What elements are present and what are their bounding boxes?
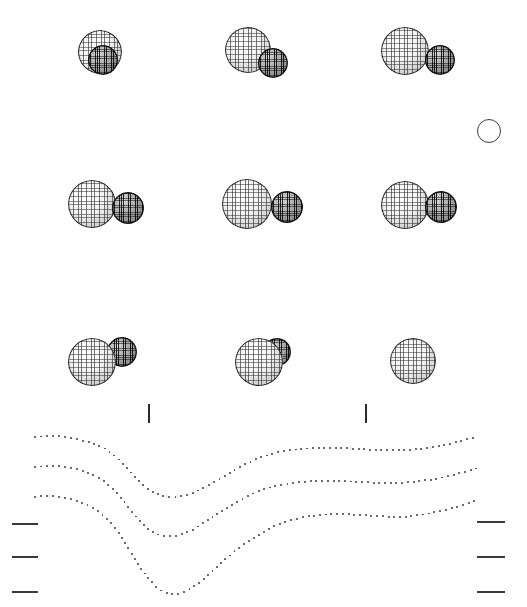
curve-dot — [229, 555, 231, 557]
config-r2c3-secondary-sphere — [425, 191, 457, 223]
curve-dot — [253, 537, 255, 539]
curve-dot — [224, 558, 226, 560]
curve-dot — [140, 568, 142, 570]
curve-dot — [290, 519, 292, 521]
curve-dot — [155, 586, 157, 588]
curve-dot — [216, 566, 218, 568]
curve-dot — [258, 534, 260, 536]
config-r2c1-primary-sphere — [68, 180, 116, 228]
curve-dot — [422, 514, 424, 516]
curve-dot — [451, 507, 453, 509]
curve-dot — [97, 510, 99, 512]
curve-dot — [439, 510, 441, 512]
config-r1c1-secondary-sphere — [88, 45, 118, 75]
curve-dot — [203, 578, 205, 580]
curve-dot — [336, 513, 338, 515]
curve-dot — [248, 540, 250, 542]
curve-dot — [388, 516, 390, 518]
curve-dot — [416, 514, 418, 516]
curve-dot — [147, 577, 149, 579]
curve-dot — [124, 542, 126, 544]
curve-dot — [114, 527, 116, 529]
curve-dot — [313, 515, 315, 517]
curve-dot — [121, 537, 123, 539]
curve-dot — [473, 500, 475, 502]
binary-star-figure — [0, 0, 527, 607]
curve-dot — [198, 582, 200, 584]
curve-dot — [325, 514, 327, 516]
curve-dot — [279, 523, 281, 525]
curve-dot — [151, 581, 153, 583]
curve-dot — [445, 509, 447, 511]
curve-bottom — [0, 0, 527, 607]
config-r1c2-secondary-sphere — [258, 48, 288, 78]
curve-dot — [87, 504, 89, 506]
curve-dot — [359, 514, 361, 516]
curve-dot — [102, 514, 104, 516]
curve-dot — [308, 515, 310, 517]
curve-dot — [365, 514, 367, 516]
curve-dot — [410, 515, 412, 517]
curve-dot — [348, 513, 350, 515]
curve-dot — [144, 573, 146, 575]
config-r2c2-primary-sphere — [222, 179, 272, 229]
curve-dot — [110, 522, 112, 524]
curve-dot — [234, 550, 236, 552]
curve-dot — [137, 563, 139, 565]
config-r2c3-primary-sphere — [381, 181, 429, 229]
curve-dot — [189, 588, 191, 590]
curve-dot — [52, 495, 54, 497]
curve-dot — [319, 514, 321, 516]
curve-dot — [302, 516, 304, 518]
config-r2c2-secondary-sphere — [271, 191, 303, 223]
config-r2c1-secondary-sphere — [112, 192, 144, 224]
curve-dot — [171, 593, 173, 595]
curve-dot — [118, 532, 120, 534]
curve-dot — [370, 515, 372, 517]
curve-dot — [212, 570, 214, 572]
curve-dot — [220, 562, 222, 564]
curve-dot — [393, 516, 395, 518]
curve-dot — [131, 553, 133, 555]
curve-dot — [296, 518, 298, 520]
curve-dot — [193, 585, 195, 587]
curve-dot — [92, 507, 94, 509]
curve-dot — [353, 514, 355, 516]
curve-dot — [433, 511, 435, 513]
curve-dot — [382, 515, 384, 517]
curve-dot — [81, 502, 83, 504]
curve-dot — [64, 497, 66, 499]
curve-dot — [330, 513, 332, 515]
curve-dot — [207, 574, 209, 576]
curve-dot — [268, 528, 270, 530]
curve-dot — [428, 513, 430, 515]
curve-dot — [399, 516, 401, 518]
curve-dot — [127, 547, 129, 549]
light-curve-plot — [0, 0, 527, 607]
config-r3c1-primary-sphere — [68, 338, 116, 386]
curve-dot — [106, 518, 108, 520]
curve-dot — [58, 496, 60, 498]
curve-dot — [243, 543, 245, 545]
curve-dot — [263, 531, 265, 533]
curve-dot — [376, 515, 378, 517]
curve-dot — [284, 521, 286, 523]
curve-dot — [76, 500, 78, 502]
curve-dot — [70, 498, 72, 500]
curve-dot — [46, 495, 48, 497]
curve-dot — [166, 592, 168, 594]
config-r1c3-primary-sphere — [381, 27, 429, 75]
curve-dot — [134, 558, 136, 560]
curve-dot — [342, 513, 344, 515]
curve-dot — [34, 496, 36, 498]
curve-dot — [405, 516, 407, 518]
curve-dot — [273, 525, 275, 527]
curve-dot — [177, 593, 179, 595]
config-r3c2-primary-sphere — [235, 338, 283, 386]
config-r3c3-primary-sphere — [390, 338, 436, 384]
curve-dot — [40, 495, 42, 497]
curve-dot — [456, 506, 458, 508]
curve-dot — [160, 590, 162, 592]
curve-dot — [238, 547, 240, 549]
curve-dot — [183, 591, 185, 593]
